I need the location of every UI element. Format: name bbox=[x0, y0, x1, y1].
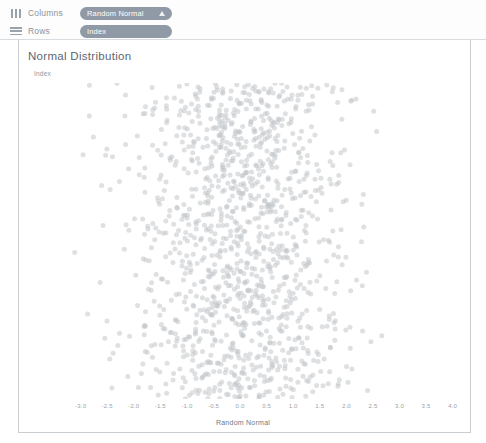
page-title: Normal Distribution bbox=[28, 50, 131, 62]
shelf-area: Columns Random Normal Rows Index bbox=[0, 0, 486, 39]
x-axis-tick: 2.5 bbox=[369, 403, 378, 409]
canvas-border-left bbox=[18, 40, 19, 433]
pill-random-normal-label: Random Normal bbox=[87, 9, 144, 18]
x-axis-tick: 3.5 bbox=[422, 403, 431, 409]
x-axis-tick: -1.5 bbox=[155, 403, 166, 409]
rows-shelf[interactable]: Rows Index bbox=[0, 22, 486, 40]
pill-random-normal[interactable]: Random Normal bbox=[80, 7, 172, 20]
viz-window: Columns Random Normal Rows Index Normal … bbox=[0, 0, 486, 443]
x-axis-tick: 1.0 bbox=[289, 403, 298, 409]
pill-index-label: Index bbox=[87, 27, 106, 36]
x-axis-tick: -1.0 bbox=[181, 403, 192, 409]
x-axis-tick: -2.0 bbox=[128, 403, 139, 409]
pill-index[interactable]: Index bbox=[80, 25, 172, 38]
row-field-label: Index bbox=[34, 70, 51, 77]
x-axis-tick: -2.5 bbox=[102, 403, 113, 409]
x-axis-tick: 1.5 bbox=[315, 403, 324, 409]
rows-icon bbox=[10, 26, 23, 36]
canvas-border-bottom bbox=[18, 432, 471, 433]
columns-shelf-label: Columns bbox=[28, 8, 76, 18]
x-axis-tick: 3.0 bbox=[395, 403, 404, 409]
x-axis-tick: -3.0 bbox=[75, 403, 86, 409]
x-axis: -3.0-2.5-2.0-1.5-1.0-0.50.00.51.01.52.02… bbox=[62, 399, 466, 415]
canvas-border-right bbox=[470, 40, 471, 433]
scatter-plot[interactable] bbox=[62, 83, 466, 399]
x-axis-tick: 2.0 bbox=[342, 403, 351, 409]
columns-icon bbox=[10, 8, 23, 18]
x-axis-tick: 0.0 bbox=[236, 403, 245, 409]
x-axis-tick: 0.5 bbox=[262, 403, 271, 409]
rows-shelf-label: Rows bbox=[28, 26, 76, 36]
x-axis-tick: 4.0 bbox=[448, 403, 457, 409]
triangle-up-icon bbox=[159, 11, 165, 16]
scatter-canvas bbox=[62, 83, 466, 399]
x-axis-title: Random Normal bbox=[0, 419, 486, 426]
columns-shelf[interactable]: Columns Random Normal bbox=[0, 4, 486, 22]
shelf-divider bbox=[0, 39, 486, 40]
x-axis-tick: -0.5 bbox=[208, 403, 219, 409]
